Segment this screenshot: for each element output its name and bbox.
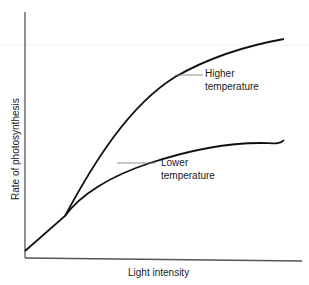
- higher-label-line2: temperature: [205, 81, 259, 93]
- y-axis-label: Rate of photosynthesis: [10, 98, 21, 200]
- higher-temperature-curve: [25, 39, 284, 251]
- chart-canvas: [0, 0, 309, 285]
- lower-label-line2: temperature: [161, 170, 215, 182]
- x-axis: [25, 258, 302, 261]
- x-axis-label: Light intensity: [128, 267, 189, 279]
- higher-label-line1: Higher: [205, 68, 234, 80]
- lower-label-line1: Lower: [161, 157, 188, 169]
